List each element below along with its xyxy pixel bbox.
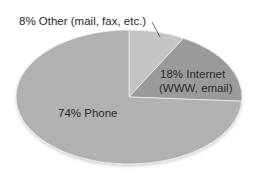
label-internet-line1: 18% Internet: [160, 67, 225, 81]
label-phone: 74% Phone: [58, 106, 117, 120]
label-internet-line2: (WWW, email): [159, 81, 232, 95]
label-other: 8% Other (mail, fax, etc.): [19, 14, 146, 28]
